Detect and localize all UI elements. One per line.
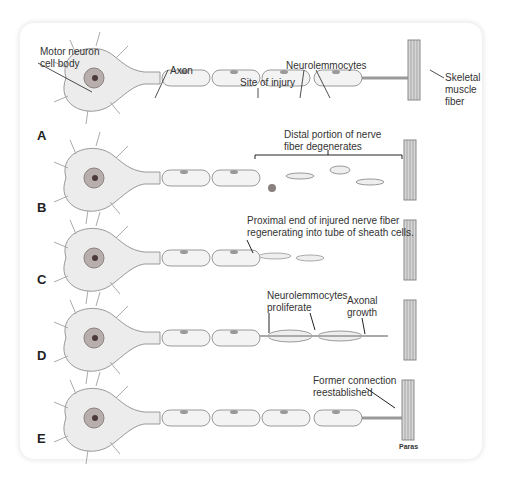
label-motor-neuron-cell-body: Motor neuron cell body [40, 46, 99, 70]
stage-letter-e: E [37, 431, 46, 446]
nerve-regeneration-illustration [0, 0, 511, 490]
label-skeletal-muscle-fiber: Skeletal muscle fiber [445, 72, 481, 108]
stage-letter-b: B [37, 200, 46, 215]
stage-letter-d: D [37, 348, 46, 363]
label-distal-degenerates: Distal portion of nerve fiber degenerate… [284, 129, 381, 153]
stage-letter-a: A [37, 128, 46, 143]
label-neurolemmocytes-proliferate: Neurolemmocytes proliferate [267, 290, 348, 314]
label-site-of-injury: Site of injury [240, 77, 295, 89]
label-neurolemmocytes: Neurolemmocytes [286, 60, 367, 72]
stage-letter-c: C [37, 272, 46, 287]
label-axonal-growth: Axonal growth [347, 295, 378, 319]
artist-signature: Paras [399, 443, 418, 450]
label-former-connection: Former connection reestablished [313, 375, 396, 399]
label-axon: Axon [170, 65, 193, 77]
label-proximal-regenerating: Proximal end of injured nerve fiber rege… [247, 215, 414, 239]
